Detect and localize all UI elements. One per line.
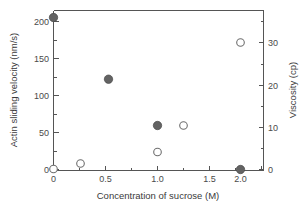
scatter-plot: 0 50 100 150 200 0 10 20 30 bbox=[0, 0, 306, 207]
data-point-open bbox=[237, 39, 245, 47]
x-major-ticks bbox=[54, 166, 262, 171]
series-actin-sliding-velocity bbox=[49, 13, 244, 173]
x-tick-label-0: 0 bbox=[51, 174, 56, 184]
data-point-filled bbox=[104, 75, 112, 83]
y-right-tick-label-30: 30 bbox=[268, 38, 278, 48]
plot-frame bbox=[54, 11, 264, 171]
y-right-tick-label-0: 0 bbox=[268, 165, 273, 175]
y-right-axis-title: Viscosity (cp) bbox=[287, 62, 298, 118]
y-right-tick-label-10: 10 bbox=[268, 123, 278, 133]
data-point-filled bbox=[49, 13, 57, 21]
x-tick-label-0.5: 0.5 bbox=[99, 174, 112, 184]
data-point-filled bbox=[236, 165, 244, 173]
data-point-open bbox=[77, 160, 85, 168]
y-left-tick-label-200: 200 bbox=[34, 17, 49, 27]
figure-container: 0 50 100 150 200 0 10 20 30 bbox=[0, 0, 306, 207]
data-point-open bbox=[180, 122, 188, 130]
y-left-tick-label-150: 150 bbox=[34, 54, 49, 64]
y-left-tick-label-0: 0 bbox=[44, 165, 49, 175]
series-viscosity bbox=[50, 39, 245, 173]
data-point-filled bbox=[153, 121, 161, 129]
y-left-tick-label-100: 100 bbox=[34, 91, 49, 101]
x-tick-label-1.0: 1.0 bbox=[151, 174, 164, 184]
x-tick-label-1.5: 1.5 bbox=[203, 174, 216, 184]
y-left-axis-title: Actin sliding velocity (nm/s) bbox=[8, 33, 19, 148]
x-axis-title: Concentration of sucrose (M) bbox=[97, 190, 220, 201]
y-left-major-ticks bbox=[54, 22, 59, 170]
data-point-open bbox=[50, 165, 58, 173]
y-right-tick-label-20: 20 bbox=[268, 81, 278, 91]
x-tick-label-2.0: 2.0 bbox=[234, 174, 247, 184]
data-point-open bbox=[154, 148, 162, 156]
y-left-tick-label-50: 50 bbox=[39, 128, 49, 138]
